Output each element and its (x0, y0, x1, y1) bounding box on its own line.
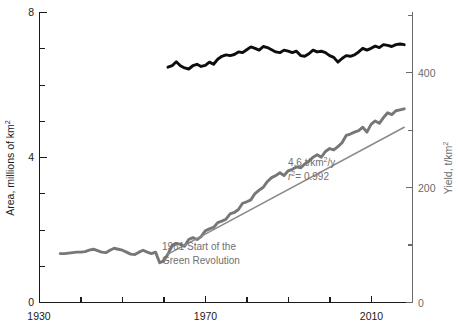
left-tick-label-4: 4 (28, 151, 34, 163)
left-tick-label-8: 8 (28, 6, 34, 18)
right-tick-label-200: 200 (418, 182, 436, 194)
chart-figure: 8 4 0 Area, millions of km2 (0, 0, 460, 334)
left-tick-label-0: 0 (28, 296, 34, 308)
regression-r2-value: = 0.992 (295, 171, 329, 182)
right-tick-label-400: 400 (418, 67, 436, 79)
left-axis-title-sup: 2 (3, 120, 12, 124)
left-axis-title-text: Area, millions of km (4, 124, 16, 216)
green-revolution-line2: Green Revolution (162, 255, 240, 266)
right-axis: 400 200 0 Yield, t/km2 (406, 12, 455, 309)
left-axis-title: Area, millions of km2 (3, 120, 16, 216)
left-axis: 8 4 0 Area, millions of km2 (3, 6, 47, 308)
right-axis-title: Yield, t/km2 (441, 142, 454, 195)
regression-r2: r2= 0.992 (288, 169, 329, 182)
chart-canvas: 8 4 0 Area, millions of km2 (0, 0, 460, 334)
regression-slope: 4.6 t/km2/y (288, 155, 335, 168)
svg-text:Yield, t/km2: Yield, t/km2 (441, 142, 454, 195)
x-tick-label-1970: 1970 (194, 310, 218, 322)
regression-slope-suffix: /y (328, 157, 336, 168)
green-revolution-line1: 1961 Start of the (162, 241, 236, 252)
right-axis-title-text: Yield, t/km (442, 145, 454, 194)
svg-text:Area, millions of km2: Area, millions of km2 (3, 120, 16, 216)
x-tick-label-1930: 1930 (27, 310, 51, 322)
series-line-yield (60, 109, 404, 263)
regression-slope-prefix: 4.6 t/km (288, 157, 324, 168)
trendline-yield (168, 127, 404, 254)
green-revolution-annotation: 1961 Start of the Green Revolution (162, 241, 240, 266)
right-axis-title-sup: 2 (441, 142, 450, 146)
bottom-axis: 1930 1970 2010 (27, 296, 412, 323)
series-line-area (168, 44, 404, 69)
right-tick-label-0: 0 (418, 297, 424, 309)
x-tick-label-2010: 2010 (360, 310, 384, 322)
